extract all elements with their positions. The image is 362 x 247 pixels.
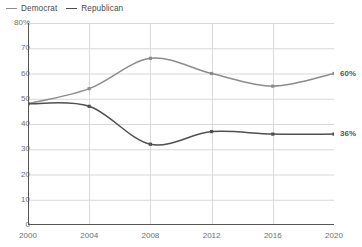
series-markers [28, 57, 334, 146]
data-point-republican-2016 [271, 133, 274, 136]
data-point-democrat-2004 [88, 87, 91, 90]
data-point-democrat-2012 [210, 72, 213, 75]
data-point-republican-2000 [28, 102, 30, 105]
series-line-republican [28, 103, 334, 145]
chart-canvas [28, 23, 334, 225]
x-tick-label: 2016 [264, 232, 282, 240]
data-point-democrat-2016 [271, 85, 274, 88]
x-tick-label: 2004 [80, 232, 98, 240]
legend-swatch-republican [66, 8, 77, 9]
x-tick-label: 2000 [19, 232, 37, 240]
data-point-democrat-2020 [332, 72, 334, 75]
data-point-republican-2004 [88, 105, 91, 108]
line-chart: Democrat Republican 80% 70 60 50 40 30 2… [0, 0, 362, 247]
legend-item-republican[interactable]: Republican [66, 5, 123, 13]
data-point-republican-2020 [332, 133, 334, 136]
series-lines [28, 58, 334, 145]
x-tick-label: 2020 [325, 232, 343, 240]
legend-label-democrat: Democrat [21, 5, 57, 13]
legend-label-republican: Republican [81, 5, 123, 13]
plot-area [28, 23, 334, 225]
end-label-democrat: 60% [340, 70, 356, 78]
data-point-democrat-2008 [149, 57, 152, 60]
x-tick-label: 2012 [203, 232, 221, 240]
legend-swatch-democrat [6, 8, 17, 9]
end-label-republican: 36% [340, 130, 356, 138]
data-point-republican-2008 [149, 143, 152, 146]
x-tick-label: 2008 [141, 232, 159, 240]
chart-legend: Democrat Republican [6, 2, 123, 16]
series-line-democrat [28, 58, 334, 104]
legend-item-democrat[interactable]: Democrat [6, 5, 57, 13]
data-point-republican-2012 [210, 130, 213, 133]
horizontal-gridlines [28, 24, 334, 226]
